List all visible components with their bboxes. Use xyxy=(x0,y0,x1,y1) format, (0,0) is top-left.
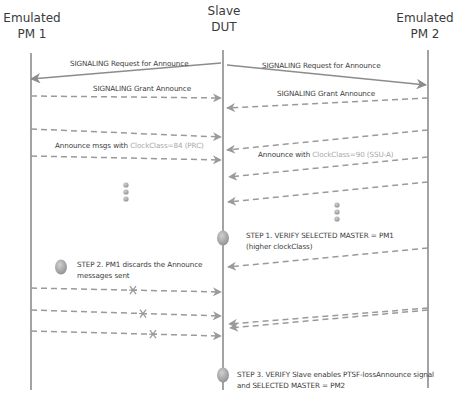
lost-message-x-icon xyxy=(129,286,137,294)
continuation-dots-left-icon xyxy=(123,182,128,201)
announce-pm1-1-arrow xyxy=(31,129,221,137)
actor-pm1-label: Emulated PM 1 xyxy=(0,10,64,42)
step3-label: STEP 3. VERIFY Slave enables PTSF-lossAn… xyxy=(237,369,434,391)
announce-pm2-2-arrow xyxy=(229,157,428,177)
actor-dut-label: Slave DUT xyxy=(198,3,250,35)
messages xyxy=(31,63,428,338)
step2-marker-icon xyxy=(55,260,67,275)
step1-marker-icon xyxy=(217,231,229,246)
announce-pm2-label: Announce with ClockClass=90 (SSU-A) xyxy=(258,150,393,159)
actor-pm2-label: Emulated PM 2 xyxy=(394,10,455,42)
signaling-grant-right-label: SIGNALING Grant Announce xyxy=(277,89,375,98)
step-markers xyxy=(55,231,229,383)
announce-pm2-6-arrow xyxy=(230,310,428,328)
lifelines xyxy=(31,50,428,390)
signaling-grant-left-label: SIGNALING Grant Announce xyxy=(93,84,191,93)
announce-pm1-label: Announce msgs with ClockClass=84 (PRC) xyxy=(55,141,204,150)
lost-message-x-icon xyxy=(139,310,147,318)
announce-pm2-1-arrow xyxy=(227,130,428,150)
continuation-dots xyxy=(123,182,339,221)
discarded-announce-3-arrow xyxy=(31,331,221,336)
signaling-grant-from-pm1-arrow xyxy=(31,96,221,98)
step2-label: STEP 2. PM1 discards the Announce messag… xyxy=(77,259,202,281)
signaling-grant-from-pm2-arrow xyxy=(227,98,428,108)
clockclass-90-value: ClockClass=90 (SSU-A) xyxy=(312,150,393,159)
sequence-diagram xyxy=(0,0,455,406)
signaling-request-left-label: SIGNALING Request for Announce xyxy=(70,59,188,68)
step3-marker-icon xyxy=(217,368,229,383)
announce-pm1-2-arrow xyxy=(31,156,221,160)
continuation-dots-right-icon xyxy=(334,202,339,221)
announce-pm1-label-prefix: Announce msgs with xyxy=(55,141,130,150)
step1-label: STEP 1. VERIFY SELECTED MASTER = PM1 (hi… xyxy=(246,230,394,252)
signaling-request-right-label: SIGNALING Request for Announce xyxy=(262,61,380,70)
lost-message-x-icon xyxy=(149,330,157,338)
discarded-announce-1-arrow xyxy=(31,288,221,292)
discarded-announce-2-arrow xyxy=(31,310,221,316)
announce-pm2-3-arrow xyxy=(228,182,428,202)
announce-pm2-label-prefix: Announce with xyxy=(258,150,312,159)
clockclass-84-value: ClockClass=84 (PRC) xyxy=(130,141,204,150)
announce-pm2-5-arrow xyxy=(229,308,428,324)
